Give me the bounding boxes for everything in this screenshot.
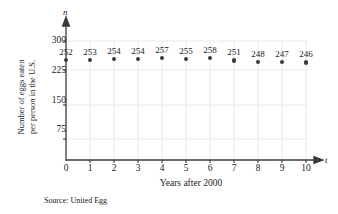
source-note: Source: United Egg <box>44 196 107 205</box>
data-point <box>160 56 164 60</box>
data-point-label: 251 <box>221 48 247 57</box>
y-axis-title-line-2: per person in the U.S. <box>27 36 38 158</box>
data-point-label: 247 <box>269 50 295 59</box>
data-point <box>136 57 140 61</box>
data-point <box>184 57 188 61</box>
data-point <box>64 58 68 62</box>
chart-figure: n t 75150225300 012345678910 25225325425… <box>0 0 338 214</box>
data-point-label: 257 <box>149 46 175 55</box>
x-axis-title: Years after 2000 <box>66 178 316 188</box>
data-point <box>304 60 308 64</box>
data-point-label: 253 <box>77 48 103 57</box>
data-point-label: 246 <box>293 50 319 59</box>
data-point <box>232 58 236 62</box>
data-point-label: 248 <box>245 50 271 59</box>
data-point <box>112 57 116 61</box>
data-point <box>208 56 212 60</box>
data-point-label: 255 <box>173 47 199 56</box>
data-point-label: 254 <box>101 47 127 56</box>
data-point-label: 258 <box>197 46 223 55</box>
data-point <box>280 60 284 64</box>
data-point <box>256 60 260 64</box>
y-axis-title: Number of eggs eaten per person in the U… <box>14 0 42 36</box>
data-point-label: 254 <box>125 47 151 56</box>
y-axis-title-line-1: Number of eggs eaten <box>16 36 27 158</box>
data-point <box>88 58 92 62</box>
data-point-label: 252 <box>53 48 79 57</box>
